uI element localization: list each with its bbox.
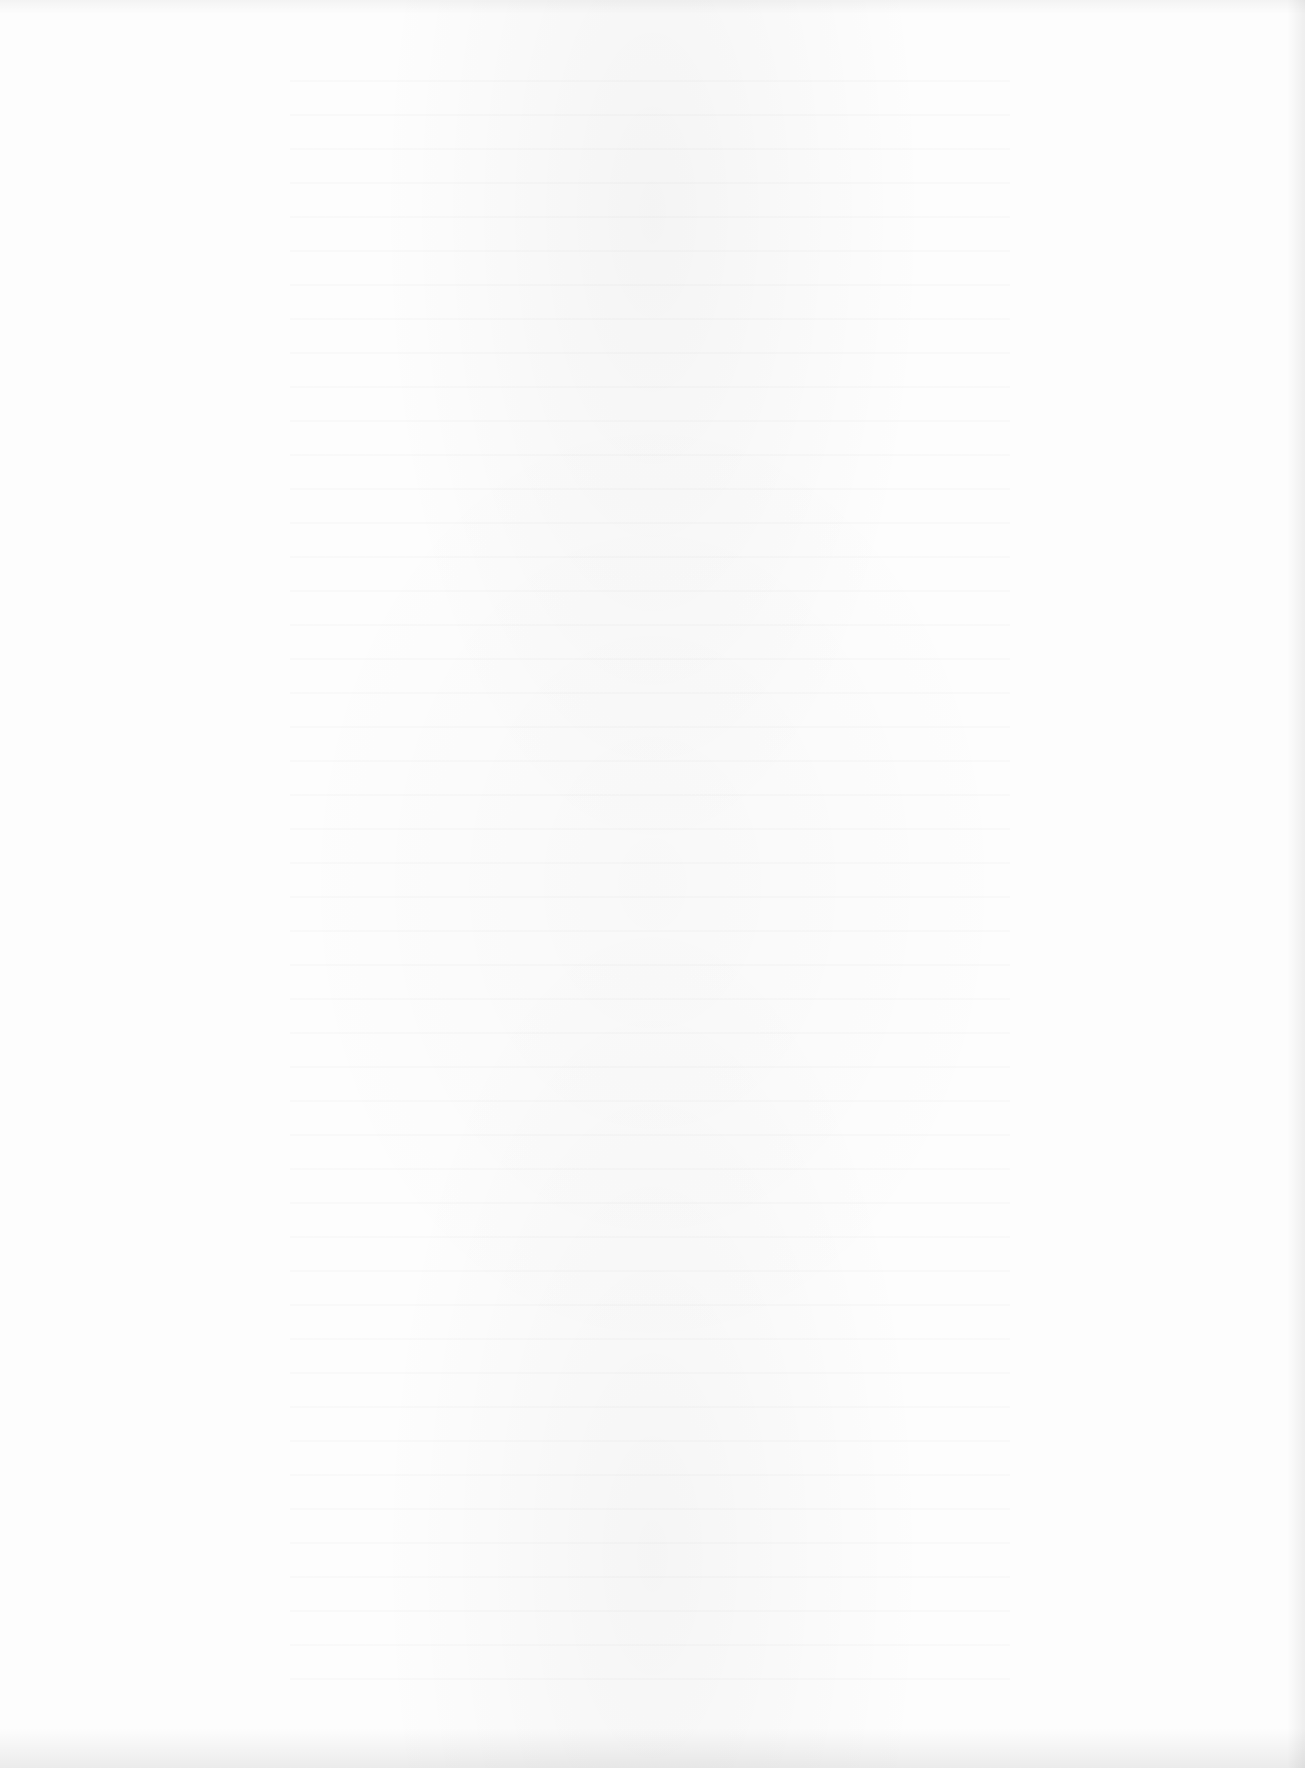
bleed-through-noise	[290, 60, 1010, 1680]
scan-edge-right	[1287, 0, 1305, 1768]
blank-scanned-page	[0, 0, 1305, 1768]
scan-edge-bottom	[0, 1728, 1305, 1768]
scan-edge-top	[0, 0, 1305, 14]
